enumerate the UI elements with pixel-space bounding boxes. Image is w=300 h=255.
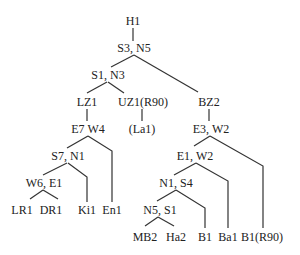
node-n5s1: N5, S1 [143,204,176,216]
edge-s1n3-uz1 [108,82,124,93]
edge-e3w2-e1w2 [194,136,210,146]
edge-n1s4-n5s1 [157,190,176,201]
node-ha2: Ha2 [166,231,186,243]
edge-s1n3-lz1 [87,82,107,93]
edge-s7n1-w6e1 [43,163,67,175]
node-lr1: LR1 [11,204,32,216]
edge-e3w2-b1r90 [210,136,263,228]
edge-e1w2-n1s4 [174,163,196,175]
node-s7n1: S7, N1 [51,150,84,162]
node-ki1: Ki1 [78,204,96,216]
node-w6e1: W6, E1 [26,177,63,189]
node-lz1: LZ1 [77,96,98,108]
node-en1: En1 [102,204,121,216]
edge-s3n5-bz2 [134,55,198,92]
node-s1n3: S1, N3 [91,69,124,81]
node-b1: B1 [198,231,212,243]
edge-n5s1-mb2 [145,217,158,226]
edge-s7n1-ki1 [68,163,87,202]
edge-s3n5-s1n3 [111,55,134,67]
node-ba1: Ba1 [218,231,237,243]
node-h1: H1 [126,15,141,27]
node-mb2: MB2 [133,231,158,243]
node-e3w2: E3, W2 [193,123,229,135]
node-b1r90: B1(R90) [241,231,283,243]
node-la1: (La1) [129,123,156,135]
edge-e7w4-en1 [88,136,112,202]
edge-e1w2-ba1 [196,163,228,228]
edge-w6e1-dr1 [43,190,58,199]
edge-w6e1-lr1 [30,190,43,199]
edge-n5s1-ha2 [158,217,174,226]
node-e1w2: E1, W2 [177,150,213,162]
node-bz2: BZ2 [198,96,219,108]
node-uz1: UZ1(R90) [118,96,168,108]
edge-n1s4-b1 [176,190,205,228]
edge-e7w4-s7n1 [67,136,88,148]
node-dr1: DR1 [40,204,63,216]
node-n1s4: N1, S4 [159,177,192,189]
node-e7w4: E7 W4 [71,123,104,135]
node-s3n5: S3, N5 [117,42,150,54]
tree-diagram: H1S3, N5S1, N3LZ1UZ1(R90)BZ2E7 W4(La1)E3… [0,0,300,255]
